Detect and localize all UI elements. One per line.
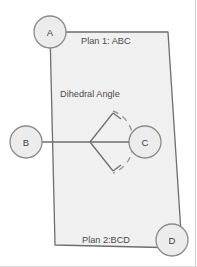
node-b: B bbox=[10, 126, 42, 158]
dihedral-angle-figure: A B C D Plan 1: ABC Dihedral Angle Plan … bbox=[0, 0, 197, 267]
plane-quadrilateral bbox=[50, 32, 182, 248]
node-c-label: C bbox=[142, 137, 149, 148]
node-a-label: A bbox=[47, 27, 54, 38]
node-d-label: D bbox=[169, 235, 176, 246]
node-d: D bbox=[156, 224, 188, 256]
plane-2-label: Plan 2:BCD bbox=[82, 235, 130, 245]
node-b-label: B bbox=[23, 137, 29, 148]
dihedral-angle-label: Dihedral Angle bbox=[60, 89, 120, 99]
figure-canvas: A B C D Plan 1: ABC Dihedral Angle Plan … bbox=[0, 0, 197, 267]
plane-1-label: Plan 1: ABC bbox=[81, 36, 131, 46]
node-c: C bbox=[129, 126, 161, 158]
node-a: A bbox=[34, 16, 66, 48]
